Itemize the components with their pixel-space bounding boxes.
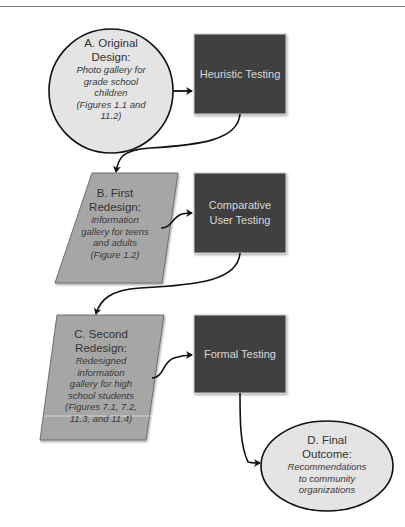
node-d-label: D. Final Outcome: Recommendations to com… — [272, 433, 382, 496]
node-c-desc-4: school students — [46, 390, 156, 402]
node-c-desc-1: Redesigned — [46, 355, 156, 367]
formal-testing-label: Formal Testing — [194, 315, 286, 393]
node-a-desc-1: Photo gallery for — [58, 64, 164, 76]
node-a-desc-3: children — [58, 87, 164, 99]
node-c-title-1: C. Second — [46, 327, 156, 341]
node-b-desc-4: (Figure 1.2) — [60, 249, 170, 261]
node-b-desc-1: Information — [60, 214, 170, 226]
node-b-label: B. First Redesign: Information gallery f… — [60, 186, 170, 260]
node-a-title-1: A. Original — [58, 36, 164, 50]
node-a-desc-2: grade school — [58, 76, 164, 88]
comparative-text-1: Comparative — [209, 198, 271, 213]
formal-testing-text: Formal Testing — [204, 347, 276, 362]
node-b-title-2: Redesign: — [60, 200, 170, 214]
connector-formal-to-d — [240, 393, 260, 463]
node-a-desc-5: 11.2) — [58, 110, 164, 122]
node-a-title-2: Design: — [58, 50, 164, 64]
node-c-desc-3: gallery for high — [46, 378, 156, 390]
node-b-desc-2: gallery for teens — [60, 226, 170, 238]
comparative-text-2: User Testing — [210, 213, 271, 228]
node-d-desc-1: Recommendations — [272, 461, 382, 473]
node-c-title-2: Redesign: — [46, 341, 156, 355]
comparative-user-testing-label: Comparative User Testing — [194, 173, 286, 253]
node-d-title-2: Outcome: — [272, 447, 382, 461]
heuristic-testing-text: Heuristic Testing — [200, 67, 281, 82]
node-d-desc-2: to community — [272, 473, 382, 485]
heuristic-testing-label: Heuristic Testing — [194, 34, 286, 114]
node-a-label: A. Original Design: Photo gallery for gr… — [58, 36, 164, 122]
node-b-title-1: B. First — [60, 186, 170, 200]
node-c-label: C. Second Redesign: Redesigned informati… — [46, 327, 156, 425]
node-c-desc-5: (Figures 7.1, 7.2, — [46, 401, 156, 413]
node-b-desc-3: and adults — [60, 237, 170, 249]
node-d-title-1: D. Final — [272, 433, 382, 447]
node-c-desc-2: information — [46, 367, 156, 379]
node-d-desc-3: organizations — [272, 484, 382, 496]
node-c-desc-6: 11.3, and 11.4) — [46, 413, 156, 425]
node-a-desc-4: (Figures 1.1 and — [58, 99, 164, 111]
